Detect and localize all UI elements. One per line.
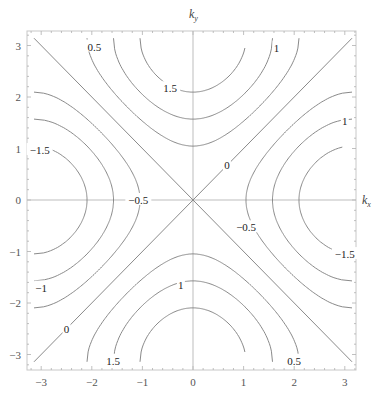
x-tick-label: 1: [241, 376, 247, 388]
y-tick-label: 1: [16, 143, 22, 155]
contour-plot: 0.511.5−1.5−0.501−0.5−1.5−1101.50.5 −3−2…: [0, 0, 382, 396]
contour-line: [140, 38, 245, 92]
contour-label: −0.5: [236, 221, 256, 233]
y-axis-label: ky: [189, 7, 198, 23]
x-axis-label: kx: [362, 193, 371, 209]
contour-label: 0: [64, 323, 70, 335]
contour-label: −0.5: [128, 194, 148, 206]
y-tick-label: −1: [9, 246, 21, 258]
contour-line: [140, 308, 245, 362]
x-tick-label: 2: [291, 376, 297, 388]
contour-label: 1: [274, 42, 280, 54]
contour-label: 0.5: [87, 41, 101, 53]
contour-label: 0: [224, 159, 230, 171]
y-tick-label: 0: [16, 194, 22, 206]
contour-label: 1: [342, 115, 348, 127]
contour-label: 1: [178, 279, 184, 291]
x-tick-label: −1: [137, 376, 149, 388]
y-tick-label: −2: [9, 297, 21, 309]
y-tick-labels: −3−2−10123: [9, 40, 21, 361]
x-tick-label: 3: [342, 376, 348, 388]
contour-label: −1.5: [30, 144, 50, 156]
y-tick-label: 3: [16, 40, 22, 52]
x-tick-label: 0: [190, 376, 196, 388]
x-tick-label: −2: [86, 376, 98, 388]
contour-label: −1: [35, 282, 47, 294]
contour-label: 0.5: [287, 355, 301, 367]
y-tick-label: −3: [9, 349, 21, 361]
x-tick-label: −3: [35, 376, 47, 388]
contour-label: 1.5: [106, 355, 120, 367]
y-tick-label: 2: [16, 91, 22, 103]
contour-label: −1.5: [335, 248, 355, 260]
contour-label: 1.5: [163, 82, 177, 94]
x-tick-labels: −3−2−10123: [35, 376, 348, 388]
